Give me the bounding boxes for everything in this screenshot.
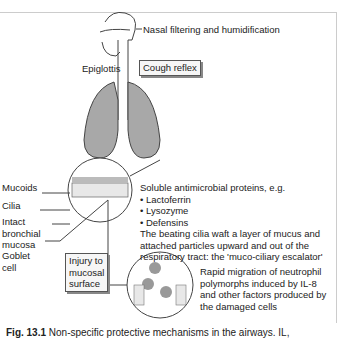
cough-reflex-box: Cough reflex <box>139 60 201 76</box>
antimicrobial-text: Soluble antimicrobial proteins, e.g. • L… <box>140 182 323 263</box>
figure-caption: Fig. 13.1 Non-specific protective mechan… <box>6 327 289 338</box>
epiglottis-label: Epiglottis <box>82 63 121 75</box>
cilia-label: Cilia <box>2 200 20 212</box>
goblet-cell-label: Goblet cell <box>2 250 30 273</box>
neutrophil-text: Rapid migration of neutrophil polymorphs… <box>200 266 326 312</box>
cough-reflex-label: Cough reflex <box>143 62 197 73</box>
nasal-label: Nasal filtering and humidification <box>143 24 280 36</box>
injury-box: Injury to mucosal surface <box>65 253 108 292</box>
mucoids-label: Mucoids <box>2 182 37 194</box>
intact-mucosa-label: Intact bronchial mucosa <box>2 216 41 251</box>
